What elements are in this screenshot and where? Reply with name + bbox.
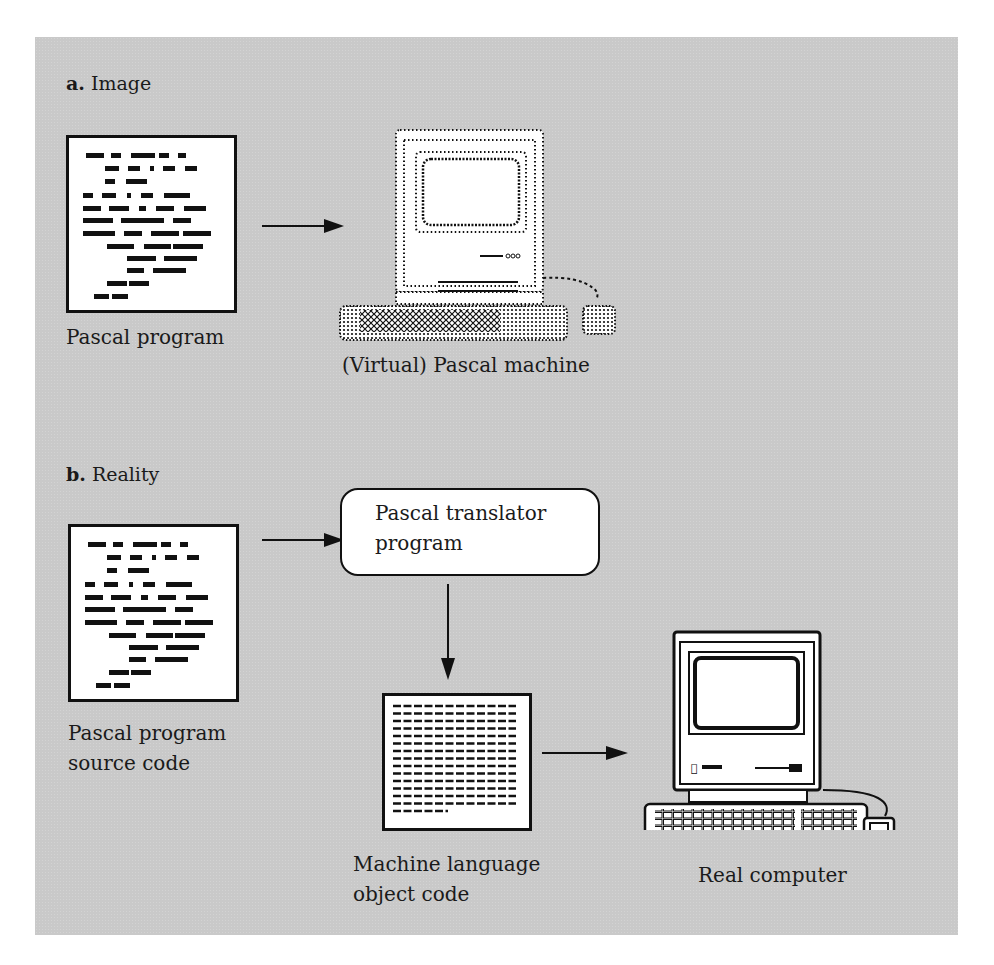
section-b-letter: b. (66, 463, 86, 485)
dotted-computer-icon (338, 128, 638, 343)
source-code-caption-line2: source code (68, 748, 226, 778)
arrow-right-icon (540, 745, 628, 761)
section-b-title: Reality (92, 463, 159, 485)
section-a-heading: a.Image (66, 72, 151, 94)
object-code-caption-line2: object code (353, 879, 540, 909)
computer-icon:  (643, 630, 903, 830)
arrow-right-icon (260, 532, 344, 548)
object-code-caption: Machine language object code (353, 849, 540, 909)
section-a-letter: a. (66, 72, 85, 94)
section-b-heading: b.Reality (66, 463, 159, 485)
source-code-caption: Pascal program source code (68, 718, 226, 778)
translator-program-box: Pascal translator program (340, 488, 600, 576)
svg-text::  (691, 762, 698, 775)
real-computer-caption: Real computer (698, 860, 847, 890)
arrow-down-icon (440, 582, 456, 680)
translator-line2: program (375, 528, 598, 558)
translator-line1: Pascal translator (375, 498, 598, 528)
virtual-machine-caption: (Virtual) Pascal machine (342, 350, 590, 380)
source-code-caption-line1: Pascal program (68, 718, 226, 748)
section-a-title: Image (91, 72, 151, 94)
arrow-right-icon (260, 218, 344, 234)
object-code-document-icon (382, 693, 532, 831)
source-code-document-icon (68, 524, 239, 702)
object-code-caption-line1: Machine language (353, 849, 540, 879)
source-document-icon (66, 135, 237, 313)
source-program-caption: Pascal program (66, 322, 224, 352)
